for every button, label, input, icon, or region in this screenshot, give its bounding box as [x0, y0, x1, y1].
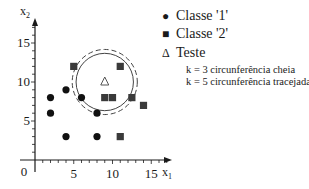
y-axis-label: x2 — [20, 4, 30, 20]
square-marker-icon: ■ — [162, 26, 176, 42]
x-tick-label: 10 — [106, 166, 119, 181]
k5-dashed-circle — [72, 49, 137, 114]
y-tick-label: 15 — [17, 35, 30, 50]
legend-item-test: ΔTeste — [162, 45, 205, 61]
legend-item-class2: ■Classe '2' — [162, 26, 228, 42]
y-tick-label: 5 — [24, 113, 31, 128]
legend-note-k5: k = 5 circunferência tracejada — [186, 76, 309, 88]
class2-point — [140, 102, 147, 109]
triangle-marker-icon: Δ — [162, 45, 176, 61]
origin-label: 0 — [21, 164, 28, 179]
legend-label-test: Teste — [176, 45, 205, 60]
x-axis-arrow-icon — [164, 157, 172, 163]
class2-point — [70, 63, 77, 70]
legend-label-class1: Classe '1' — [176, 8, 228, 23]
class1-point — [62, 86, 69, 93]
class1-point — [62, 133, 69, 140]
y-tick-label: 10 — [17, 74, 30, 89]
x-axis-label: x1 — [162, 165, 172, 181]
legend-note-k3: k = 3 circunferência cheia — [186, 64, 295, 76]
legend-label-class2: Classe '2' — [176, 26, 228, 41]
test-point — [101, 77, 109, 85]
y-axis-arrow-icon — [32, 18, 38, 26]
x-tick-label: 5 — [71, 166, 78, 181]
k3-solid-circle — [76, 53, 133, 110]
class1-point — [93, 110, 100, 117]
class1-point — [47, 110, 54, 117]
circle-marker-icon: ● — [162, 8, 176, 24]
scatter-plot: 51015510150x2x1 — [0, 0, 309, 189]
class2-point — [117, 133, 124, 140]
class1-point — [78, 94, 85, 101]
legend-item-class1: ●Classe '1' — [162, 8, 228, 24]
class2-point — [128, 94, 135, 101]
class1-point — [47, 94, 54, 101]
x-tick-label: 15 — [145, 166, 158, 181]
class1-point — [93, 133, 100, 140]
class2-point — [101, 94, 108, 101]
class2-point — [109, 94, 116, 101]
class2-point — [117, 63, 124, 70]
